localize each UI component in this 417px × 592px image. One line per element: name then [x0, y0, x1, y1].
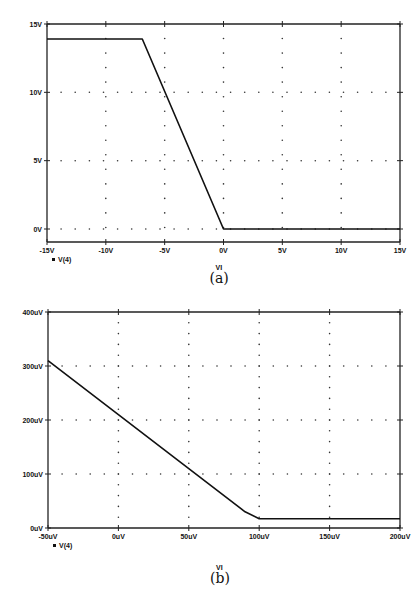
- grid-dot: [329, 408, 331, 410]
- grid-dot: [258, 506, 260, 508]
- grid-dot: [357, 160, 359, 162]
- legend-label: V(4): [59, 542, 72, 550]
- grid-dot: [371, 419, 373, 421]
- x-tick-label: -10V: [98, 247, 113, 254]
- grid-dot: [343, 92, 345, 94]
- grid-dot: [223, 96, 225, 98]
- grid-dot: [258, 376, 260, 378]
- grid-dot: [105, 52, 107, 54]
- grid-dot: [223, 38, 225, 40]
- grid-dot: [117, 228, 119, 230]
- grid-dot: [223, 154, 225, 156]
- grid-dot: [329, 376, 331, 378]
- grid-dot: [173, 228, 175, 230]
- grid-dot: [223, 67, 225, 69]
- grid-dot: [188, 408, 190, 410]
- grid-dot: [216, 365, 218, 367]
- y-tick-label: 300uV: [22, 363, 43, 370]
- grid-dot: [118, 419, 120, 421]
- figure-caption: (a): [210, 270, 229, 286]
- grid-dot: [282, 140, 284, 142]
- grid-dot: [118, 462, 120, 464]
- grid-dot: [164, 67, 166, 69]
- grid-dot: [188, 365, 190, 367]
- grid-dot: [357, 473, 359, 475]
- grid-dot: [258, 365, 260, 367]
- grid-dot: [188, 333, 190, 335]
- grid-dot: [118, 333, 120, 335]
- grid-dot: [118, 441, 120, 443]
- legend-square-icon: [52, 258, 55, 261]
- grid-dot: [89, 473, 91, 475]
- grid-dot: [164, 227, 166, 229]
- grid-dot: [160, 419, 162, 421]
- grid-dot: [173, 92, 175, 94]
- grid-dot: [300, 160, 302, 162]
- grid-dot: [60, 160, 62, 162]
- grid-dot: [132, 419, 134, 421]
- grid-dot: [357, 92, 359, 94]
- grid-dot: [188, 452, 190, 454]
- grid-dot: [117, 92, 119, 94]
- grid-dot: [329, 92, 331, 94]
- grid-dot: [164, 110, 166, 112]
- grid-dot: [258, 462, 260, 464]
- grid-dot: [74, 228, 76, 230]
- grid-dot: [258, 473, 260, 475]
- grid-dot: [118, 376, 120, 378]
- grid-dot: [159, 92, 161, 94]
- grid-dot: [105, 110, 107, 112]
- grid-dot: [258, 160, 260, 162]
- y-tick-label: 5V: [33, 157, 42, 164]
- grid-dot: [188, 430, 190, 432]
- figure-caption: (b): [210, 570, 230, 586]
- grid-dot: [282, 227, 284, 229]
- grid-dot: [340, 227, 342, 229]
- legend-label: V(4): [58, 256, 71, 264]
- grid-dot: [216, 473, 218, 475]
- grid-dot: [340, 125, 342, 127]
- grid-dot: [282, 52, 284, 54]
- grid-dot: [105, 154, 107, 156]
- grid-dot: [174, 419, 176, 421]
- grid-dot: [89, 419, 91, 421]
- grid-dot: [329, 495, 331, 497]
- grid-dot: [188, 462, 190, 464]
- grid-dot: [174, 365, 176, 367]
- y-tick-label: 0uV: [30, 525, 43, 532]
- x-tick-label: 50uV: [180, 533, 197, 540]
- grid-dot: [357, 365, 359, 367]
- grid-dot: [301, 473, 303, 475]
- grid-dot: [216, 160, 218, 162]
- grid-dot: [223, 52, 225, 54]
- grid-dot: [258, 419, 260, 421]
- grid-dot: [244, 160, 246, 162]
- grid-dot: [187, 160, 189, 162]
- grid-dot: [188, 441, 190, 443]
- grid-dot: [164, 140, 166, 142]
- grid-dot: [223, 183, 225, 185]
- grid-dot: [258, 354, 260, 356]
- grid-dot: [272, 92, 274, 94]
- grid-dot: [105, 183, 107, 185]
- y-tick-label: 15V: [30, 21, 43, 28]
- grid-dot: [371, 473, 373, 475]
- x-tick-label: 150uV: [319, 533, 340, 540]
- y-tick-label: 100uV: [22, 471, 43, 478]
- grid-dot: [188, 473, 190, 475]
- grid-dot: [173, 160, 175, 162]
- grid-dot: [188, 354, 190, 356]
- grid-dot: [118, 516, 120, 518]
- grid-dot: [118, 344, 120, 346]
- grid-dot: [287, 473, 289, 475]
- grid-dot: [202, 160, 204, 162]
- x-tick-label: -15V: [40, 247, 55, 254]
- grid-dot: [132, 365, 134, 367]
- grid-dot: [385, 419, 387, 421]
- grid-dot: [223, 198, 225, 200]
- grid-dot: [258, 452, 260, 454]
- grid-dot: [258, 92, 260, 94]
- grid-dot: [244, 473, 246, 475]
- grid-dot: [273, 473, 275, 475]
- grid-dot: [258, 441, 260, 443]
